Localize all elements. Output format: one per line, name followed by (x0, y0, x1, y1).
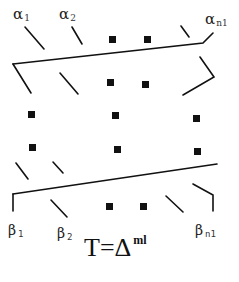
dot (29, 144, 36, 151)
label-beta-1: β1 (8, 222, 24, 239)
label-alpha-n1: αn1 (205, 11, 228, 28)
label-beta-2: β2 (57, 225, 73, 242)
bottom-boundary-line (13, 164, 217, 194)
strand-mid-left-1 (16, 163, 28, 179)
strand-right-chevron (183, 57, 214, 95)
strand-bottom-right (166, 196, 183, 212)
formula-lhs: T=Δ (84, 233, 131, 262)
formula-caption: T=Δml (84, 234, 147, 261)
dot (106, 203, 113, 210)
dot (107, 79, 114, 86)
label-alpha-1: α1 (13, 6, 30, 23)
dot (28, 111, 35, 118)
betan1-strand (193, 184, 213, 211)
strand-left-2 (60, 73, 78, 94)
beta2-strand (51, 200, 67, 217)
label-beta-n1: βn1 (195, 222, 216, 239)
alpha1-strand (25, 27, 44, 49)
dot (109, 36, 116, 43)
dot (193, 115, 200, 122)
formula-superscript: ml (133, 233, 146, 247)
alpha2-strand (72, 27, 82, 44)
strand-mid-left-2 (53, 162, 63, 173)
dot (142, 81, 149, 88)
dot (194, 148, 201, 155)
dot (140, 203, 147, 210)
dot (112, 112, 119, 119)
label-alpha-2: α2 (59, 6, 76, 23)
dot (144, 36, 151, 43)
strand-top-right (181, 26, 189, 37)
dot (114, 146, 121, 153)
strand-left-1 (13, 64, 31, 93)
